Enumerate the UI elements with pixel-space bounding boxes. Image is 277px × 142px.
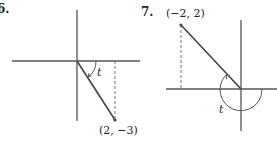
angle-arc xyxy=(88,61,96,77)
figure-7-number: 7. xyxy=(141,5,154,19)
figures-svg xyxy=(0,0,277,142)
point-marker xyxy=(113,118,116,121)
figure-7-angle-label: t xyxy=(219,103,223,116)
diagram-canvas: 6. t (2, −3) 7. (−2, 2) t xyxy=(0,0,277,142)
figure-6 xyxy=(12,10,140,122)
terminal-ray xyxy=(77,61,115,120)
terminal-ray xyxy=(181,25,241,89)
point-marker xyxy=(179,23,182,26)
figure-6-point-label: (2, −3) xyxy=(99,124,138,137)
figure-7-point-label: (−2, 2) xyxy=(166,7,205,20)
figure-6-angle-label: t xyxy=(97,66,101,79)
figure-6-number: 6. xyxy=(0,2,10,16)
